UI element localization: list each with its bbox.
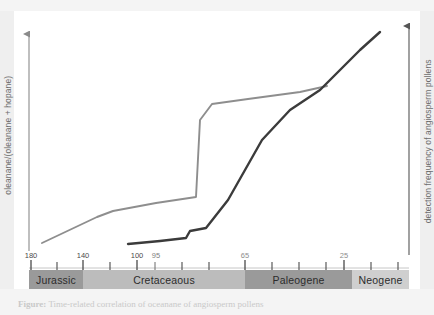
era-band-neogene: Neogene: [352, 270, 409, 289]
era-label-neogene: Neogene: [358, 274, 402, 286]
tick-label-140: 140: [77, 252, 90, 260]
figure-plate: [14, 11, 420, 289]
tick-label-100: 100: [131, 252, 144, 260]
geological-timeline: Jurassic Cretaceaous Paleogene Neogene: [29, 270, 409, 289]
caption-text: Time-related correlation of oceanane of …: [46, 299, 263, 309]
right-axis-label-strip: detection frequency of angiosperm pollen…: [420, 11, 434, 289]
left-axis-label-strip: oleanane/(oleanane + hopane): [0, 11, 14, 289]
era-label-jurassic: Jurassic: [36, 274, 76, 286]
left-axis-label: oleanane/(oleanane + hopane): [4, 60, 13, 210]
tick-label-180: 180: [25, 252, 38, 260]
tick-label-25: 25: [340, 252, 348, 260]
right-axis-label: detection frequency of angiosperm pollen…: [424, 63, 433, 223]
era-band-jurassic: Jurassic: [29, 270, 83, 289]
figure-root: oleanane/(oleanane + hopane) detection f…: [0, 0, 434, 315]
era-label-paleogene: Paleogene: [272, 274, 324, 286]
figure-caption: Figure: Time-related correlation of ocea…: [18, 299, 422, 315]
tick-label-95: 95: [152, 252, 160, 260]
era-band-cretaceous: Cretaceaous: [83, 270, 245, 289]
era-band-paleogene: Paleogene: [245, 270, 352, 289]
era-label-cretaceous: Cretaceaous: [133, 274, 195, 286]
caption-label: Figure:: [18, 299, 46, 309]
tick-label-65: 65: [241, 252, 249, 260]
